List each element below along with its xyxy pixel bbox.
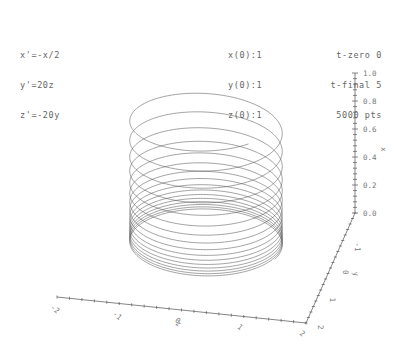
axes — [57, 73, 358, 325]
z-tick-label: 2 — [298, 329, 307, 339]
x-tick-label: 0.6 — [363, 125, 377, 134]
plot-3d: 0.00.20.40.60.81.0x-2-1012z210-1y — [0, 0, 411, 346]
x-axis-title: x — [379, 147, 388, 152]
trajectory-path — [130, 93, 283, 276]
y-axis-title: y — [351, 271, 361, 277]
axis-labels: 0.00.20.40.60.81.0x-2-1012z210-1y — [49, 69, 388, 338]
z-tick-label: -1 — [111, 309, 124, 322]
y-tick-label: -1 — [353, 243, 362, 252]
x-tick-label: 0.4 — [363, 153, 377, 162]
x-tick-label: 0.0 — [363, 209, 377, 218]
x-tick-label: 0.8 — [363, 97, 377, 106]
y-tick-label: 2 — [316, 325, 325, 330]
y-tick-label: 1 — [328, 298, 337, 303]
helix-trajectory — [130, 93, 283, 276]
x-tick-label: 0.2 — [363, 181, 377, 190]
x-tick-label: 1.0 — [363, 69, 377, 78]
z-tick-label: 1 — [235, 322, 244, 332]
z-tick-label: -2 — [49, 303, 62, 316]
y-tick-label: 0 — [341, 270, 350, 275]
